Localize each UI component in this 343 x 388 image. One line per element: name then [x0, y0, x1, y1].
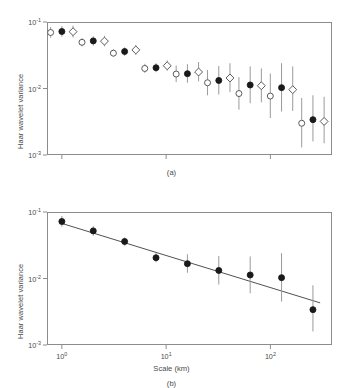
panel-a-plot-canvas	[0, 0, 343, 190]
data-point-open-diamond	[69, 28, 77, 36]
panel-b-x-axis-label: Scale (km)	[0, 364, 343, 373]
data-point-filled-circle	[90, 228, 96, 234]
data-point-filled-circle	[247, 82, 253, 88]
y-tick-label: 10-3	[28, 150, 41, 160]
panel-b-caption: (b)	[0, 379, 343, 388]
data-point-filled-circle	[59, 28, 65, 34]
data-point-filled-circle	[90, 38, 96, 44]
data-point-filled-circle	[184, 71, 190, 77]
data-point-open-diamond	[100, 37, 108, 45]
x-tick-label: 102	[250, 351, 290, 361]
data-point-open-diamond	[289, 86, 297, 94]
data-point-filled-circle	[216, 267, 222, 273]
data-point-filled-circle	[122, 239, 128, 245]
y-tick-label: 10-1	[28, 17, 41, 27]
data-point-filled-circle	[310, 307, 316, 313]
data-point-open-circle	[142, 65, 148, 71]
data-point-filled-circle	[279, 85, 285, 91]
data-point-filled-circle	[122, 49, 128, 55]
data-point-filled-circle	[216, 77, 222, 83]
data-point-open-circle	[267, 93, 273, 99]
data-point-open-circle	[299, 120, 305, 126]
y-tick-label: 10-2	[28, 84, 41, 94]
data-point-filled-circle	[153, 255, 159, 261]
data-point-open-diamond	[226, 74, 234, 82]
data-point-open-diamond	[257, 82, 265, 90]
data-point-filled-circle	[184, 261, 190, 267]
y-tick-label: 10-2	[28, 274, 41, 284]
y-tick-label: 10-3	[28, 340, 41, 350]
data-point-open-diamond	[320, 117, 328, 125]
data-point-open-diamond	[163, 62, 171, 70]
data-point-filled-circle	[247, 272, 253, 278]
data-point-open-diamond	[195, 68, 203, 76]
data-point-open-circle	[110, 50, 116, 56]
x-tick-label: 100	[42, 351, 82, 361]
data-point-open-circle	[48, 30, 54, 36]
data-point-filled-circle	[310, 117, 316, 123]
y-tick-label: 10-1	[28, 207, 41, 217]
data-point-filled-circle	[59, 218, 65, 224]
data-point-open-circle	[236, 91, 242, 97]
data-point-filled-circle	[279, 275, 285, 281]
data-point-open-circle	[205, 80, 211, 86]
data-point-filled-circle	[153, 65, 159, 71]
data-point-open-diamond	[132, 46, 140, 54]
x-tick-label: 101	[146, 351, 186, 361]
panel-a: Haar wavelet variance (a) 10-110-210-3	[0, 0, 343, 190]
panel-b: Haar wavelet variance Scale (km) (b) 10-…	[0, 190, 343, 380]
data-point-open-circle	[173, 71, 179, 77]
panel-a-caption: (a)	[0, 168, 343, 177]
data-point-open-circle	[79, 39, 85, 45]
